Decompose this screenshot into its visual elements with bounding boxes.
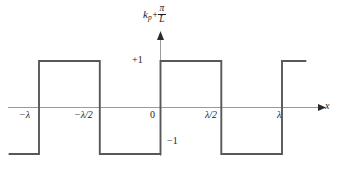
fraction-denominator: L [158, 15, 165, 25]
y-axis-arrowhead [157, 31, 164, 40]
y-tick-label-minus-one: −1 [167, 136, 178, 146]
x-axis-label: x [325, 101, 329, 111]
y-axis-title: kp+πL [143, 4, 166, 24]
x-tick-label-neg-lambda: −λ [19, 110, 30, 120]
y-axis-title-fraction: πL [158, 4, 165, 24]
x-tick-label-half-lambda: λ/2 [205, 110, 217, 120]
y-tick-label-plus-one: +1 [132, 55, 143, 65]
y-axis-title-operator: + [152, 9, 159, 20]
square-wave-figure: kp+πL +1 −1 0 −λ −λ/2 λ/2 λ x [0, 0, 338, 171]
origin-label: 0 [150, 110, 155, 120]
x-tick-label-lambda: λ [277, 110, 281, 120]
x-tick-label-neg-half-lambda: −λ/2 [74, 110, 93, 120]
